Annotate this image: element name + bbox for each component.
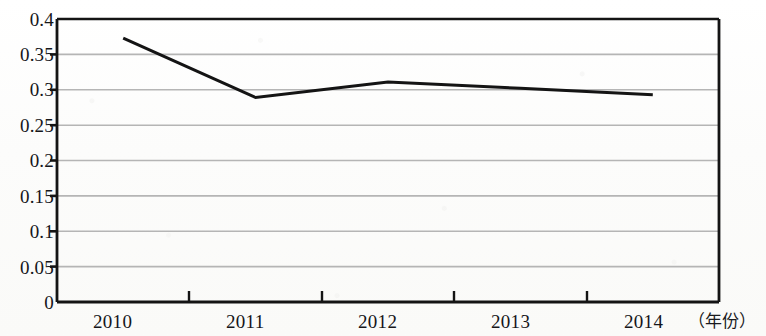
gridlines: [57, 54, 719, 266]
x-tick-label-2012: 2012: [358, 312, 397, 331]
x-axis-ticks: [189, 291, 587, 302]
chart-plot-area: [0, 0, 766, 336]
line-chart-figure: 0.4 0.35 0.3 0.25 0.2 0.15 0.1 0.05 0: [0, 0, 766, 336]
data-series-line: [123, 38, 653, 97]
x-tick-label-2014: 2014: [624, 312, 663, 331]
x-axis-unit-label: （年份）: [688, 313, 756, 330]
x-tick-label-2011: 2011: [226, 312, 265, 331]
x-tick-label-2013: 2013: [491, 312, 530, 331]
x-tick-label-2010: 2010: [93, 312, 132, 331]
